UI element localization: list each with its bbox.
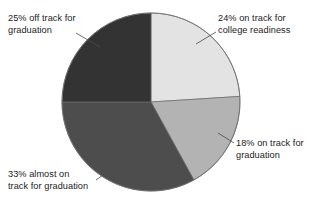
slice-label-almost-on-track-graduation: 33% almost on track for graduation xyxy=(8,168,88,193)
pie-chart: 25% off track for graduation 24% on trac… xyxy=(0,0,325,209)
slice-label-off-track-graduation: 25% off track for graduation xyxy=(8,12,76,37)
slice-label-on-track-college-readiness: 24% on track for college readiness xyxy=(218,12,290,37)
slice-label-on-track-graduation: 18% on track for graduation xyxy=(236,137,304,162)
pie-slices xyxy=(62,13,240,191)
